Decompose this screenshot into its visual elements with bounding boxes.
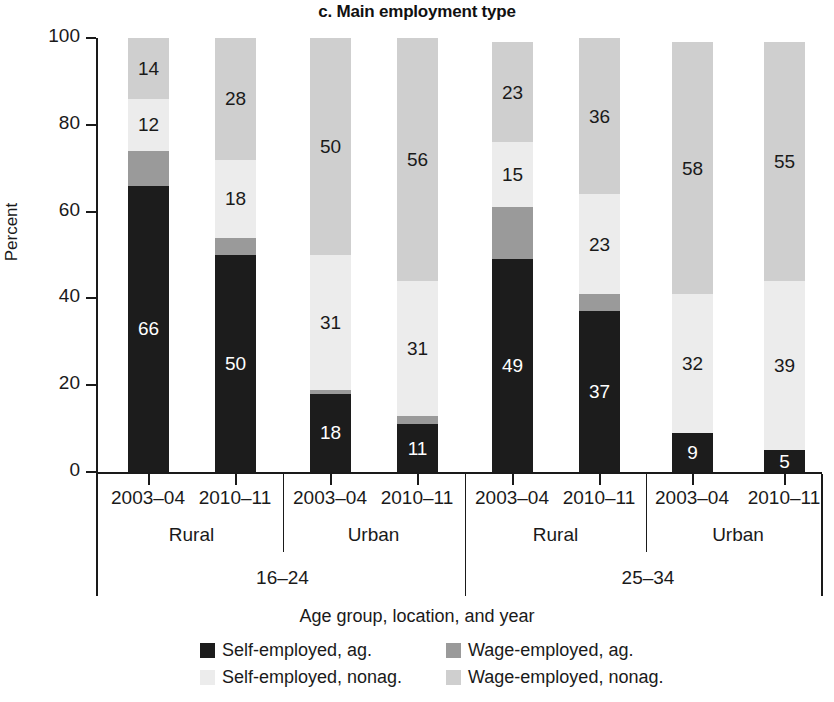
x-axis-group-divider [646, 474, 648, 552]
bar-segment: 50 [310, 38, 351, 255]
bar-segment: 9 [672, 433, 713, 472]
legend-label: Self-employed, nonag. [222, 667, 402, 688]
x-axis-group-divider [96, 474, 98, 596]
bar-segment: 11 [397, 424, 438, 472]
bar-segment: 31 [397, 281, 438, 416]
bar-segment: 66 [128, 186, 169, 472]
x-axis-tick [599, 474, 601, 485]
legend-swatch-icon [200, 643, 215, 658]
stacked-bar[interactable]: 93258 [672, 42, 713, 472]
stacked-bar[interactable]: 183150 [310, 38, 351, 472]
x-axis-year-label: 2010–11 [183, 487, 287, 509]
bar-segment: 28 [215, 38, 256, 160]
x-axis-group-divider [283, 474, 285, 552]
bar-segment: 18 [215, 160, 256, 238]
y-axis-tick [86, 211, 96, 213]
bar-segment: 37 [579, 311, 620, 472]
bar-segment: 15 [492, 142, 533, 207]
stacked-bar[interactable]: 491523 [492, 42, 533, 472]
legend-swatch-icon [200, 670, 215, 685]
y-axis-tick [86, 297, 96, 299]
bar-segment: 50 [215, 255, 256, 472]
legend: Self-employed, ag.Wage-employed, ag.Self… [200, 640, 720, 688]
bar-segment: 49 [492, 259, 533, 472]
x-axis-tick [512, 474, 514, 485]
legend-item[interactable]: Wage-employed, ag. [446, 640, 720, 661]
y-axis-tick [86, 37, 96, 39]
bar-segment [492, 207, 533, 259]
legend-swatch-icon [446, 670, 461, 685]
legend-item[interactable]: Self-employed, ag. [200, 640, 446, 661]
y-axis-tick-label: 20 [20, 372, 80, 394]
legend-item[interactable]: Wage-employed, nonag. [446, 667, 720, 688]
x-axis-agegroup-label: 16–24 [223, 567, 343, 589]
bar-segment: 18 [310, 394, 351, 472]
y-axis-title: Percent [2, 172, 22, 292]
y-axis-tick [86, 384, 96, 386]
y-axis-tick [86, 471, 96, 473]
bar-segment: 58 [672, 42, 713, 294]
x-axis-location-label: Rural [132, 524, 252, 546]
y-axis-tick-label: 80 [20, 112, 80, 134]
x-axis-tick [784, 474, 786, 485]
y-axis-tick-label: 0 [20, 459, 80, 481]
x-axis-labels: 2003–042010–112003–042010–112003–042010–… [96, 474, 822, 596]
legend-label: Self-employed, ag. [222, 640, 372, 661]
legend-item[interactable]: Self-employed, nonag. [200, 667, 446, 688]
stacked-bar[interactable]: 53955 [764, 42, 805, 472]
x-axis-location-label: Urban [678, 524, 798, 546]
bar-segment [579, 294, 620, 311]
legend-label: Wage-employed, ag. [468, 640, 633, 661]
x-axis-tick [417, 474, 419, 485]
plot-area: 6612145018281831501131564915233723369325… [97, 38, 821, 472]
x-axis-group-divider [465, 474, 467, 596]
x-axis-tick [148, 474, 150, 485]
y-axis-tick-label: 100 [20, 25, 80, 47]
bar-segment: 56 [397, 38, 438, 281]
x-axis-group-divider [821, 474, 823, 596]
x-axis-tick [692, 474, 694, 485]
bar-segment: 5 [764, 450, 805, 472]
x-axis-year-label: 2010–11 [365, 487, 469, 509]
x-axis-location-label: Rural [496, 524, 616, 546]
x-axis-agegroup-label: 25–34 [588, 567, 708, 589]
x-axis-title: Age group, location, and year [0, 606, 834, 627]
bar-segment: 31 [310, 255, 351, 390]
y-axis-tick [86, 124, 96, 126]
x-axis-year-label: 2010–11 [732, 487, 834, 509]
bar-segment [215, 238, 256, 255]
stacked-bar[interactable]: 113156 [397, 38, 438, 472]
bar-segment: 23 [579, 194, 620, 294]
bar-segment: 14 [128, 38, 169, 99]
bar-segment: 12 [128, 99, 169, 151]
stacked-bar[interactable]: 501828 [215, 38, 256, 472]
stacked-bar[interactable]: 661214 [128, 38, 169, 472]
stacked-bar[interactable]: 372336 [579, 38, 620, 472]
y-axis-tick-label: 60 [20, 199, 80, 221]
x-axis-year-label: 2010–11 [547, 487, 651, 509]
bar-segment [128, 151, 169, 186]
legend-swatch-icon [446, 643, 461, 658]
bar-segment: 36 [579, 38, 620, 194]
x-axis-year-label: 2003–04 [640, 487, 744, 509]
chart-title: c. Main employment type [0, 2, 834, 22]
x-axis-tick [330, 474, 332, 485]
bar-segment: 32 [672, 294, 713, 433]
x-axis-location-label: Urban [314, 524, 434, 546]
y-axis-tick-label: 40 [20, 285, 80, 307]
bar-segment [397, 416, 438, 425]
bar-segment: 39 [764, 281, 805, 450]
bar-segment: 23 [492, 42, 533, 142]
x-axis-tick [235, 474, 237, 485]
bar-segment: 55 [764, 42, 805, 281]
legend-label: Wage-employed, nonag. [468, 667, 663, 688]
